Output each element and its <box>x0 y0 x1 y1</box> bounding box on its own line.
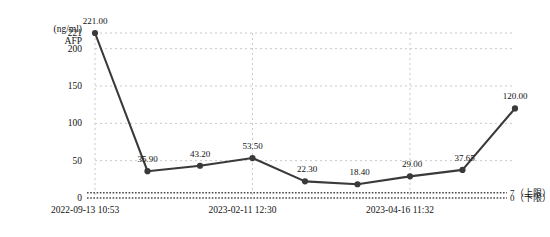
data-point-label: 43.20 <box>190 149 210 159</box>
y-axis-tick: 150 <box>56 81 82 91</box>
y-axis-tick: 200 <box>56 44 82 54</box>
y-axis-tick: 0 <box>56 193 82 203</box>
data-point-label: 35.90 <box>137 154 157 164</box>
data-point-label: 221.00 <box>83 16 108 26</box>
x-axis-tick: 2023-02-11 12:30 <box>209 205 277 216</box>
data-point-label: 18.40 <box>349 167 369 177</box>
series-line <box>95 33 515 184</box>
reference-line-label: 0（下限） <box>510 193 550 203</box>
y-axis-tick: 50 <box>56 156 82 166</box>
reference-lines <box>87 193 507 198</box>
data-point-label: 53.50 <box>242 141 262 151</box>
data-point-label: 22.30 <box>297 164 317 174</box>
x-axis-tick: 2022-09-13 10:53 <box>51 205 119 216</box>
x-axis-tick: 2023-04-16 11:32 <box>366 205 434 216</box>
y-axis-tick: 100 <box>56 118 82 128</box>
data-point-label: 29.00 <box>402 159 422 169</box>
y-axis-tick: 221 <box>56 28 82 38</box>
data-point-label: 120.00 <box>503 91 528 101</box>
data-point-label: 37.65 <box>454 153 474 163</box>
